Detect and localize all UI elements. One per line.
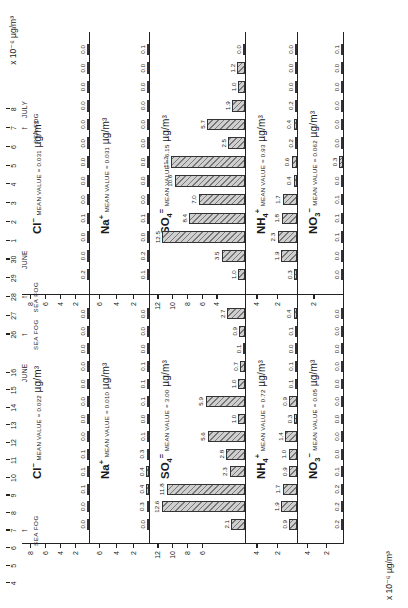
bar bbox=[281, 250, 297, 262]
bar-value-label: 0.1 bbox=[79, 450, 86, 459]
bar bbox=[238, 269, 245, 281]
panel-no3-right: NO3− MEAN VALUE = 0.062 µg/m³20.00.00.10… bbox=[298, 30, 343, 295]
bar bbox=[295, 100, 297, 112]
bar-value-label: 0.1 bbox=[333, 195, 340, 204]
bar bbox=[167, 484, 245, 495]
panel-na-right: Na+ MEAN VALUE = 0.031 µg/m³2460.10.20.0… bbox=[90, 30, 149, 295]
bar-group: 0.20.20.20.10.00.00.00.00.00.00.00.00.0 bbox=[298, 295, 343, 543]
bar-value-label: 0.3 bbox=[286, 415, 293, 424]
y-tick-label: 4 bbox=[253, 551, 260, 565]
bar bbox=[341, 308, 343, 319]
bar-value-label: 0.3 bbox=[138, 450, 145, 459]
bar bbox=[294, 414, 297, 425]
bar-value-label: 1.8 bbox=[273, 214, 280, 223]
bar bbox=[147, 431, 149, 442]
bar bbox=[237, 62, 245, 74]
y-tick-label: 12 bbox=[154, 551, 161, 565]
sea-fog-arrow-icon: ↑ bbox=[20, 126, 29, 131]
bar bbox=[283, 194, 297, 206]
bar bbox=[147, 194, 149, 206]
bar bbox=[147, 414, 149, 425]
date-tick-label: 8 bbox=[10, 107, 17, 111]
y-tick bbox=[172, 294, 173, 299]
y-tick-label: 6 bbox=[95, 551, 102, 565]
bar-value-label: 0.0 bbox=[79, 362, 86, 371]
y-tick-label: 6 bbox=[198, 302, 205, 316]
date-tick-label: 2 bbox=[10, 220, 17, 224]
bar bbox=[147, 326, 149, 337]
bar bbox=[87, 62, 89, 74]
bar-value-label: 2.3 bbox=[221, 467, 228, 476]
date-tick-label: 8 bbox=[10, 511, 17, 515]
bar bbox=[147, 175, 149, 187]
bar bbox=[87, 137, 89, 149]
bar-value-label: 0.0 bbox=[79, 233, 86, 242]
bar bbox=[341, 213, 343, 225]
bar-group: 0.00.00.10.10.10.00.30.00.00.00.00.00.1 bbox=[298, 30, 343, 294]
bar bbox=[341, 137, 343, 149]
rotated-figure-canvas: x 10⁻⁶ µg/m³ x 10⁻⁶ µg/m³ Cl− MEAN VALUE… bbox=[6, 6, 402, 602]
bar-value-label: 0.0 bbox=[333, 83, 340, 92]
bar bbox=[87, 466, 89, 477]
y-tick-label: 2 bbox=[274, 551, 281, 565]
bar bbox=[341, 343, 343, 354]
bar-value-label: 12.5 bbox=[154, 231, 161, 243]
bar bbox=[147, 361, 149, 372]
date-tick-label: 15 bbox=[10, 386, 17, 394]
axis-title-top-right: x 10⁻⁶ µg/m³ bbox=[8, 16, 18, 65]
bar bbox=[87, 44, 89, 56]
bar-value-label: 0.1 bbox=[79, 214, 86, 223]
bar bbox=[281, 501, 297, 512]
date-tick-label: 30 bbox=[10, 256, 17, 264]
bar-group: 0.00.30.40.40.30.10.00.10.10.10.00.00.0 bbox=[90, 295, 149, 543]
panel-row-na: Na+ MEAN VALUE = 0.010 µg/m³2460.00.30.4… bbox=[90, 32, 150, 544]
bar bbox=[147, 81, 149, 93]
bar-value-label: 0.0 bbox=[333, 345, 340, 354]
bar bbox=[87, 414, 89, 425]
bar bbox=[162, 501, 245, 512]
y-tick-label: 6 bbox=[198, 551, 205, 565]
y-tick-label: 12 bbox=[154, 302, 161, 316]
bar-value-label: 0.1 bbox=[139, 214, 146, 223]
date-tick-label: 5 bbox=[10, 564, 17, 568]
y-tick bbox=[157, 294, 158, 299]
bar bbox=[207, 119, 245, 131]
y-tick bbox=[99, 543, 100, 548]
bar-value-label: 0.0 bbox=[79, 45, 86, 54]
bar-value-label: 0.1 bbox=[139, 380, 146, 389]
bar-value-label: 0.0 bbox=[139, 195, 146, 204]
bar-value-label: 0.0 bbox=[79, 415, 86, 424]
bar bbox=[147, 100, 149, 112]
bar-value-label: 0.1 bbox=[235, 345, 242, 354]
bar-value-label: 11.8 bbox=[158, 483, 165, 495]
y-tick bbox=[277, 543, 278, 548]
bar-value-label: 0.4 bbox=[285, 309, 292, 318]
panel-nh4-left: NH4+ MEAN VALUE = 0.72 µg/m³240.91.91.70… bbox=[246, 295, 297, 543]
bar-value-label: 0.0 bbox=[333, 139, 340, 148]
date-tick-label: 6 bbox=[10, 145, 17, 149]
bar-value-label: 0.1 bbox=[139, 362, 146, 371]
bar-value-label: 0.0 bbox=[139, 176, 146, 185]
panel-row-so4: SO4= MEAN VALUE = 3.00 µg/m³6810122.112.… bbox=[150, 32, 246, 544]
bar bbox=[87, 379, 89, 390]
date-tick-label: 4 bbox=[10, 183, 17, 187]
bar bbox=[175, 175, 245, 187]
bar-value-label: 2.3 bbox=[269, 233, 276, 242]
month-label: JULY bbox=[21, 101, 28, 118]
bar-value-label: 1.9 bbox=[273, 252, 280, 261]
bar bbox=[295, 81, 297, 93]
bar bbox=[341, 519, 343, 530]
bar bbox=[289, 466, 297, 477]
y-tick bbox=[60, 543, 61, 548]
bar bbox=[341, 81, 343, 93]
bar bbox=[146, 484, 149, 495]
bar bbox=[87, 501, 89, 512]
bar-value-label: 0.0 bbox=[79, 64, 86, 73]
y-tick-label: 2 bbox=[310, 302, 317, 316]
bar-value-label: 0.2 bbox=[333, 485, 340, 494]
bar bbox=[295, 343, 297, 354]
bar-value-label: 0.9 bbox=[281, 520, 288, 529]
bar-value-label: 1.4 bbox=[277, 432, 284, 441]
bar-value-label: 1.0 bbox=[230, 270, 237, 279]
bar-value-label: 0.1 bbox=[139, 45, 146, 54]
